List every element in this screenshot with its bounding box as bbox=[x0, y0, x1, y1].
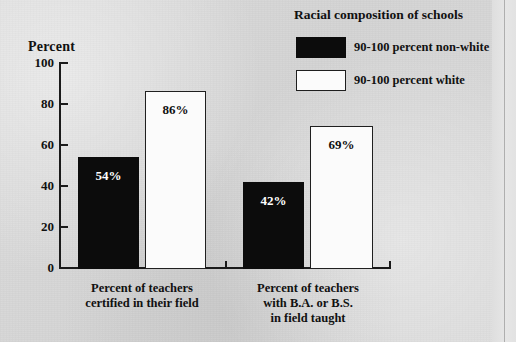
legend-swatch-dark bbox=[296, 37, 346, 58]
y-tick-label-100: 100 bbox=[20, 56, 54, 69]
y-tick-label-0: 0 bbox=[20, 261, 54, 274]
group-label-line: in field taught bbox=[228, 311, 388, 326]
bar-group1-white: 86% bbox=[145, 91, 206, 269]
y-tick-label-40: 40 bbox=[20, 179, 54, 192]
y-tick-label-60: 60 bbox=[20, 138, 54, 151]
y-tick-40 bbox=[61, 185, 68, 187]
group-label-line: with B.A. or B.S. bbox=[228, 296, 388, 311]
legend-swatch-light bbox=[296, 70, 346, 91]
x-group-label-2: Percent of teachers with B.A. or B.S. in… bbox=[228, 281, 388, 326]
y-tick-label-20: 20 bbox=[20, 220, 54, 233]
legend-label: 90-100 percent non-white bbox=[354, 41, 489, 54]
x-tick-axis-end bbox=[389, 261, 391, 269]
y-tick-80 bbox=[61, 103, 68, 105]
y-axis-line bbox=[59, 62, 61, 269]
bar-group2-nonwhite: 42% bbox=[243, 182, 304, 269]
y-tick-label-80: 80 bbox=[20, 97, 54, 110]
bar-value-label: 69% bbox=[311, 138, 372, 151]
bar-value-label: 54% bbox=[79, 169, 138, 182]
legend-label: 90-100 percent white bbox=[354, 74, 465, 87]
legend-title: Racial composition of schools bbox=[294, 8, 463, 22]
y-tick-100 bbox=[61, 62, 68, 64]
bar-value-label: 42% bbox=[244, 194, 303, 207]
bar-group1-nonwhite: 54% bbox=[78, 157, 139, 269]
group-label-line: certified in their field bbox=[62, 296, 222, 311]
page-edge-line bbox=[504, 0, 505, 342]
bar-chart-figure: Percent 100 80 60 40 20 0 54% 86% 42% 69… bbox=[0, 0, 516, 342]
y-tick-60 bbox=[61, 144, 68, 146]
bar-value-label: 86% bbox=[146, 103, 205, 116]
x-tick-group-divider bbox=[225, 261, 227, 269]
x-group-label-1: Percent of teachers certified in their f… bbox=[62, 281, 222, 311]
y-axis-title: Percent bbox=[28, 39, 75, 55]
bar-group2-white: 69% bbox=[310, 126, 373, 269]
group-label-line: Percent of teachers bbox=[228, 281, 388, 296]
y-tick-20 bbox=[61, 226, 68, 228]
group-label-line: Percent of teachers bbox=[62, 281, 222, 296]
